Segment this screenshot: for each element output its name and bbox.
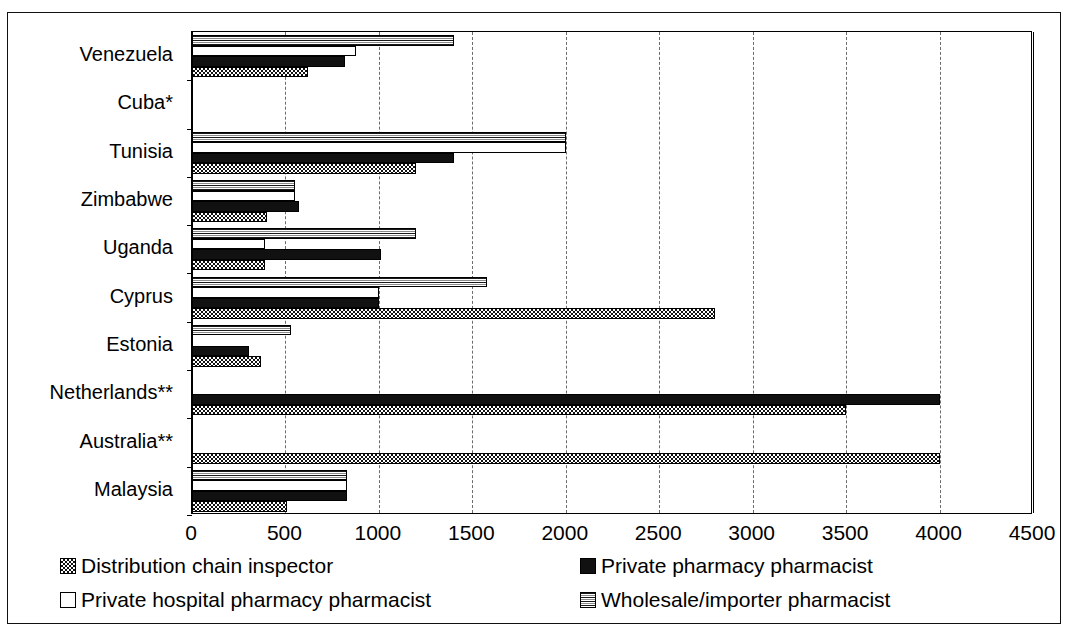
bar-pharmacy [192, 153, 454, 164]
bar-hospital [192, 191, 295, 202]
category-label: Australia** [0, 431, 182, 451]
bar-inspector [192, 356, 261, 367]
bar-group [192, 370, 1031, 418]
xtick-label-2000: 2000 [541, 521, 588, 545]
legend-label: Private pharmacy pharmacist [601, 554, 873, 578]
category-label: Cyprus [0, 286, 182, 306]
legend-item[interactable]: Private pharmacy pharmacist [580, 554, 873, 578]
gridline-4500 [1033, 32, 1034, 513]
bar-group [192, 322, 1031, 370]
legend-item[interactable]: Wholesale/importer pharmacist [580, 588, 890, 612]
category-label: Malaysia [0, 479, 182, 499]
legend-swatch-pharmacy-icon [580, 558, 596, 574]
category-label: Venezuela [0, 44, 182, 64]
bar-inspector [192, 405, 846, 416]
legend-swatch-inspector-icon [60, 558, 76, 574]
category-label: Cuba* [0, 92, 182, 112]
bar-pharmacy [192, 56, 345, 67]
category-label: Uganda [0, 237, 182, 257]
chart-legend: Distribution chain inspectorPrivate phar… [60, 554, 1050, 620]
xtick-label-3500: 3500 [822, 521, 869, 545]
page-frame-bottom [7, 623, 1061, 624]
value-axis-labels: 050010001500200025003000350040004500 [0, 521, 1068, 551]
legend-item[interactable]: Distribution chain inspector [60, 554, 333, 578]
bar-hospital [192, 142, 566, 153]
bar-inspector [192, 212, 267, 223]
bar-wholesale [192, 470, 347, 481]
bar-wholesale [192, 180, 295, 191]
bar-inspector [192, 260, 265, 271]
bar-wholesale [192, 228, 416, 239]
legend-label: Private hospital pharmacy pharmacist [81, 588, 431, 612]
xtick-label-4500: 4500 [1009, 521, 1056, 545]
bar-group [192, 418, 1031, 466]
category-label: Tunisia [0, 141, 182, 161]
bar-group [192, 177, 1031, 225]
bar-wholesale [192, 132, 566, 143]
bar-group [192, 80, 1031, 128]
page-frame-top [7, 12, 1061, 13]
plot-area [191, 31, 1032, 514]
legend-label: Distribution chain inspector [81, 554, 333, 578]
bar-hospital [192, 46, 356, 57]
xtick-label-4000: 4000 [915, 521, 962, 545]
xtick-label-2500: 2500 [635, 521, 682, 545]
bar-group [192, 129, 1031, 177]
bar-inspector [192, 163, 416, 174]
xtick-label-0: 0 [185, 521, 197, 545]
bar-hospital [192, 287, 379, 298]
bar-pharmacy [192, 491, 347, 502]
bar-group [192, 274, 1031, 322]
xtick-label-1500: 1500 [448, 521, 495, 545]
category-label: Zimbabwe [0, 189, 182, 209]
category-label: Netherlands** [0, 382, 182, 402]
bar-group [192, 467, 1031, 515]
bar-inspector [192, 67, 308, 78]
bar-group [192, 32, 1031, 80]
category-tick [187, 515, 192, 516]
legend-item[interactable]: Private hospital pharmacy pharmacist [60, 588, 431, 612]
legend-swatch-hospital-icon [60, 592, 76, 608]
bar-pharmacy [192, 346, 249, 357]
bar-inspector [192, 308, 715, 319]
bar-pharmacy [192, 201, 299, 212]
category-label: Estonia [0, 334, 182, 354]
figure-root: VenezuelaCuba*TunisiaZimbabweUgandaCypru… [0, 0, 1068, 627]
bar-group [192, 225, 1031, 273]
bar-wholesale [192, 277, 487, 288]
bar-wholesale [192, 325, 291, 336]
legend-label: Wholesale/importer pharmacist [601, 588, 890, 612]
bar-hospital [192, 239, 265, 250]
bar-wholesale [192, 35, 454, 46]
bar-pharmacy [192, 298, 379, 309]
bar-pharmacy [192, 394, 940, 405]
xtick-label-1000: 1000 [355, 521, 402, 545]
bar-inspector [192, 453, 940, 464]
xtick-label-3000: 3000 [728, 521, 775, 545]
legend-swatch-wholesale-icon [580, 592, 596, 608]
xtick-label-500: 500 [267, 521, 302, 545]
category-axis-labels: VenezuelaCuba*TunisiaZimbabweUgandaCypru… [0, 31, 182, 514]
bar-hospital [192, 480, 347, 491]
bar-pharmacy [192, 249, 381, 260]
bar-inspector [192, 501, 287, 512]
